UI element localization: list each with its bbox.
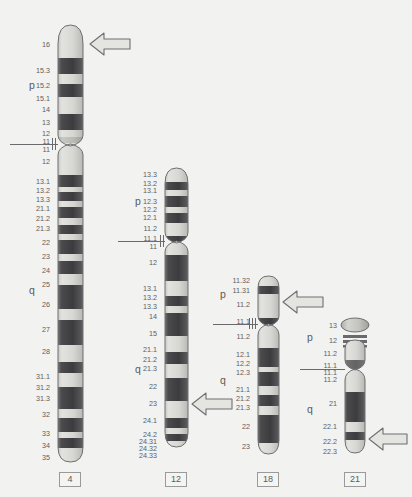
- band-label: 13: [303, 322, 337, 329]
- band-label: 31.3: [18, 395, 50, 402]
- chromosome-4-centromere-tick-1: [52, 138, 53, 150]
- band-label: 24: [18, 267, 50, 274]
- band-label: 13: [18, 119, 50, 126]
- band-label: 11: [18, 146, 50, 153]
- band-label: 21.1: [18, 205, 50, 212]
- chromosome-21: p q 13 12 11.2 11.1 11.1 11.2 21 22.1 22…: [295, 0, 412, 497]
- band-label: 16: [18, 41, 50, 48]
- ideogram-canvas: p q 16 15.3 15.2 15.1 14 13 12 11 11 12 …: [0, 0, 412, 497]
- band-label: 13.3: [18, 196, 50, 203]
- band-label: 11: [124, 243, 157, 250]
- chromosome-4-centromere-tick-2: [55, 138, 56, 150]
- band-label: 13.1: [18, 178, 50, 185]
- band-label: 22: [215, 423, 250, 430]
- band-label: 24.33: [124, 452, 157, 459]
- chromosome-18-centromere-tick-3: [255, 318, 256, 329]
- chromosome-4-number: 4: [59, 472, 81, 487]
- band-label: 11.31: [215, 287, 250, 294]
- band-label: 31.2: [18, 384, 50, 391]
- band-label: 11.2: [215, 301, 250, 308]
- band-label: 15: [124, 330, 157, 337]
- chromosome-12-number: 12: [165, 472, 187, 487]
- band-label: 14: [18, 106, 50, 113]
- band-label: 33: [18, 430, 50, 437]
- band-label: 15.1: [18, 95, 50, 102]
- band-label: 21.3: [215, 404, 250, 411]
- band-label: 21.2: [124, 356, 157, 363]
- band-label: 31.1: [18, 373, 50, 380]
- band-label: 21.2: [215, 395, 250, 402]
- chromosome-18-centromere-tick-2: [252, 318, 253, 329]
- band-label: 15.3: [18, 67, 50, 74]
- band-label: 23: [18, 253, 50, 260]
- band-label: 13.1: [124, 285, 157, 292]
- band-label: 12.1: [215, 351, 250, 358]
- band-label: 12: [18, 158, 50, 165]
- band-label: 13.1: [124, 187, 157, 194]
- chromosome-21-arrow: [367, 425, 409, 453]
- band-label: 23: [215, 443, 250, 450]
- band-label: 15.2: [18, 82, 50, 89]
- band-label: 11.2: [303, 350, 337, 357]
- band-label: 22.2: [303, 438, 337, 445]
- band-label: 24.1: [124, 417, 157, 424]
- band-label: 21.1: [215, 386, 250, 393]
- band-label: 23: [124, 400, 157, 407]
- chromosome-12-centromere-tick-2: [163, 235, 164, 247]
- chromosome-21-number: 21: [344, 472, 366, 487]
- chromosome-12-centromere-tick-1: [160, 235, 161, 247]
- band-label: 12.1: [124, 214, 157, 221]
- band-label: 11.2: [215, 333, 250, 340]
- band-label: 32: [18, 411, 50, 418]
- band-label: 25: [18, 281, 50, 288]
- band-label: 12.2: [215, 360, 250, 367]
- band-label: 12: [303, 337, 337, 344]
- band-label: 12: [124, 259, 157, 266]
- chromosome-18-number: 18: [257, 472, 279, 487]
- band-label: 21.2: [18, 215, 50, 222]
- band-label: 12.3: [215, 369, 250, 376]
- band-label: 35: [18, 454, 50, 461]
- band-label: 34: [18, 442, 50, 449]
- band-label: 21.1: [124, 346, 157, 353]
- band-label: 11.2: [303, 376, 337, 383]
- band-label: 22.1: [303, 423, 337, 430]
- band-label: 21.3: [124, 365, 157, 372]
- band-label: 11.32: [215, 277, 250, 284]
- band-label: 27: [18, 326, 50, 333]
- band-label: 22: [124, 383, 157, 390]
- band-label: 13.2: [124, 294, 157, 301]
- band-label: 22.3: [303, 448, 337, 455]
- band-label: 13.2: [18, 187, 50, 194]
- band-label: 26: [18, 301, 50, 308]
- band-label: 21: [303, 400, 337, 407]
- band-label: 11.2: [124, 225, 157, 232]
- band-label: 13.3: [124, 303, 157, 310]
- band-label: 28: [18, 348, 50, 355]
- band-label: 11.1: [215, 318, 250, 325]
- band-label: 14: [124, 313, 157, 320]
- band-label: 21.3: [18, 225, 50, 232]
- band-label: 22: [18, 239, 50, 246]
- band-label: 13.3: [124, 171, 157, 178]
